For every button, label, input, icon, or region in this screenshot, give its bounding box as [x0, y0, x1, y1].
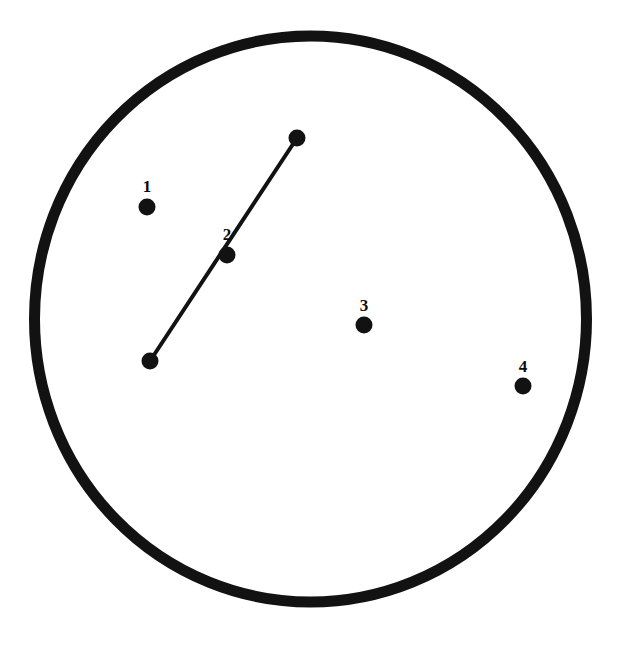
data-point-1[interactable] [139, 199, 156, 216]
unlabeled-point-1[interactable] [289, 130, 306, 147]
outer-circle [35, 36, 587, 602]
data-point-3[interactable] [356, 317, 373, 334]
point-label-2: 2 [223, 225, 232, 244]
unlabeled-point-2[interactable] [142, 353, 159, 370]
point-label-3: 3 [360, 296, 369, 315]
point-label-1: 1 [143, 177, 152, 196]
data-point-2[interactable] [219, 247, 236, 264]
scatter-diagram: 1234 [0, 0, 628, 650]
figure-canvas: 1234 [0, 0, 628, 650]
data-point-4[interactable] [515, 378, 532, 395]
point-label-4: 4 [519, 357, 528, 376]
